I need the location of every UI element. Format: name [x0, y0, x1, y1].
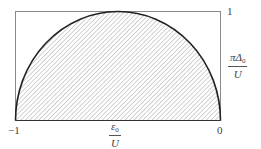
- y-label-subscript: 0: [242, 57, 246, 65]
- x-axis-label: ε0 U: [109, 121, 121, 149]
- x-tick-zero: 0: [217, 125, 223, 136]
- x-label-subscript: 0: [115, 126, 119, 134]
- pi-delta-symbol: πΔ: [230, 51, 242, 63]
- y-axis-label-numerator: πΔ0: [228, 52, 247, 67]
- hatched-region: [16, 11, 221, 120]
- y-axis-label-denominator: U: [228, 67, 247, 80]
- x-tick-minus-one: −1: [8, 125, 20, 136]
- x-axis-label-denominator: U: [109, 136, 121, 149]
- y-axis-label: πΔ0 U: [228, 52, 247, 80]
- x-axis-label-numerator: ε0: [109, 121, 121, 136]
- y-tick-one: 1: [227, 6, 233, 17]
